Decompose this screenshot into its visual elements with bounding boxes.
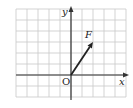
origin-label: O [62,76,70,87]
vector-f-shaft [71,47,90,75]
vector-diagram: x y O F [0,0,133,108]
x-axis-label: x [119,76,125,87]
vector-f-label: F [84,29,93,40]
y-axis-label: y [61,6,68,17]
